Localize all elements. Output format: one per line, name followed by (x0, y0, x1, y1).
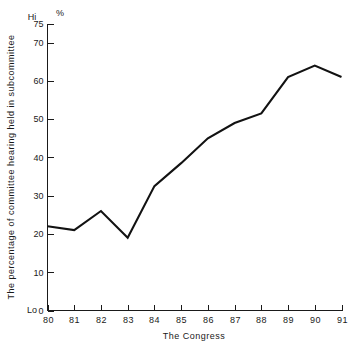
x-tick-label: 85 (176, 315, 187, 325)
x-tick-label: 87 (230, 315, 241, 325)
y-tick-label: 75 (33, 19, 43, 29)
y-tick-label: 20 (33, 229, 43, 239)
x-tick-label: 83 (123, 315, 134, 325)
y-axis-low-marker: Lo (27, 305, 37, 315)
y-tick-label: 60 (33, 76, 43, 86)
x-tick-label: 84 (149, 315, 160, 325)
y-tick-label: 10 (33, 268, 43, 278)
chart-figure: % Hi Lo 01020304050607075 80818283848586… (0, 0, 349, 347)
y-tick-label: 30 (33, 191, 43, 201)
data-series-group (48, 66, 342, 238)
y-tick-label: 50 (33, 114, 43, 124)
x-tick-label: 89 (283, 315, 294, 325)
x-tick-label: 86 (203, 315, 214, 325)
x-tick-label: 80 (43, 315, 54, 325)
x-tick-label: 91 (337, 315, 348, 325)
x-tick-label: 90 (310, 315, 321, 325)
y-axis-unit-label: % (56, 8, 64, 18)
x-axis-title: The Congress (163, 331, 226, 341)
x-axis-ticks: 808182838485868788899091 (43, 305, 348, 325)
data-series-line (48, 66, 342, 238)
y-axis-title: The percentage of committee hearing held… (6, 34, 16, 299)
x-tick-label: 88 (256, 315, 267, 325)
x-tick-label: 81 (69, 315, 80, 325)
y-axis-ticks: 01020304050607075 (33, 19, 53, 316)
x-tick-label: 82 (96, 315, 107, 325)
line-chart: % Hi Lo 01020304050607075 80818283848586… (0, 0, 349, 347)
y-tick-label: 40 (33, 153, 43, 163)
y-tick-label: 70 (33, 38, 43, 48)
